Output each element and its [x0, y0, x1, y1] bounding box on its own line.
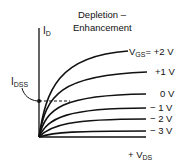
- title-line2: Enhancement: [73, 22, 132, 33]
- curves: [39, 51, 147, 137]
- curve-label-0: 0 V: [160, 88, 175, 99]
- idss-point: [37, 99, 41, 103]
- title-line1: Depletion –: [78, 9, 127, 20]
- curve-vgs-plus2: [39, 51, 128, 137]
- curve-vgs-minus1: [39, 108, 146, 137]
- curve-label-minus3: − 3 V: [150, 125, 173, 136]
- idss-arrow: [22, 88, 37, 101]
- curve-label-minus1: − 1 V: [150, 102, 173, 113]
- idss-label: IDSS: [11, 76, 29, 88]
- jfet-characteristic-diagram: ID Depletion – Enhancement IDSS + VDS VG…: [0, 0, 192, 163]
- curve-label-plus1: +1 V: [155, 66, 175, 77]
- curve-label-vgs-plus2: VGS= +2 V: [129, 46, 174, 58]
- curve-label-minus2: − 2 V: [150, 113, 173, 124]
- x-axis-label: + VDS: [128, 149, 153, 161]
- y-axis-label: ID: [43, 25, 51, 37]
- curve-vgs-minus3: [39, 131, 146, 137]
